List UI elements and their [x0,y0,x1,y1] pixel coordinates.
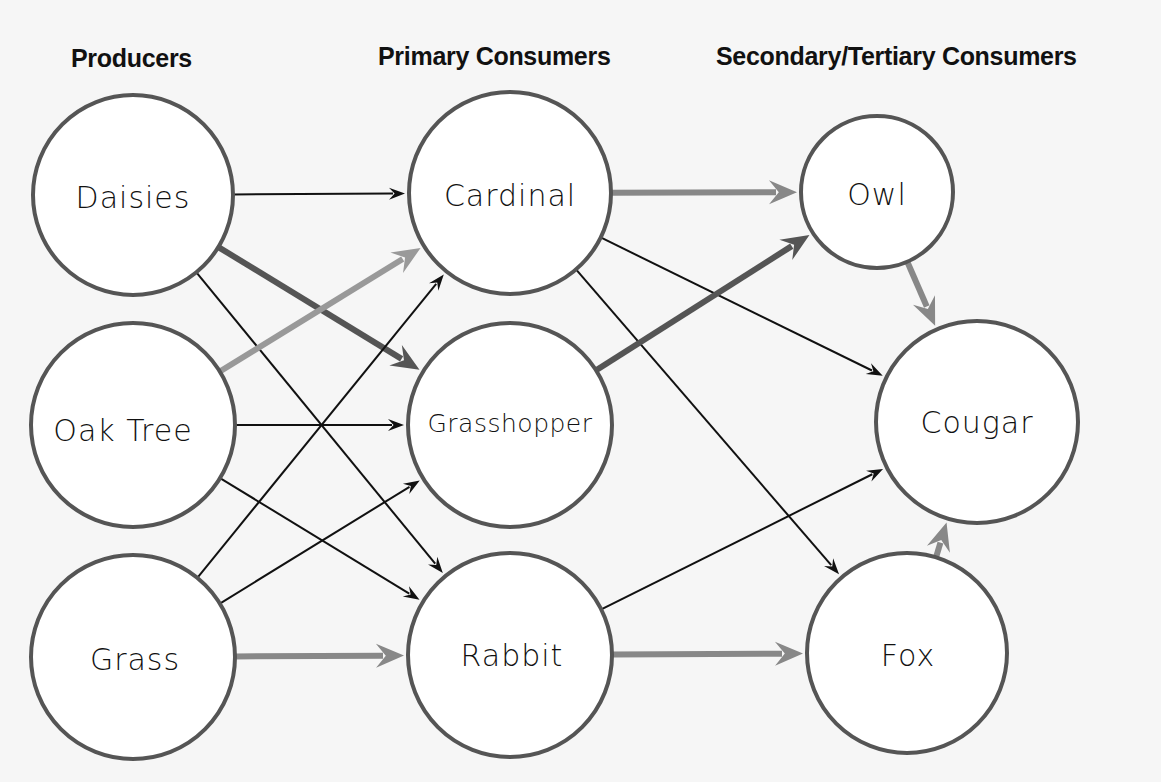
heading-primary-consumers: Primary Consumers [378,42,611,71]
arrowhead-icon [403,586,420,599]
node-label-owl: Owl [847,177,906,212]
node-label-rabbit: Rabbit [461,638,564,673]
arrow-rabbit-to-fox [612,642,803,666]
heading-producers: Producers [71,44,192,73]
node-label-cougar: Cougar [920,405,1033,440]
arrow-cardinal-to-fox [576,269,839,574]
food-web-diagram: Producers Primary Consumers Secondary/Te… [0,0,1161,782]
arrowhead-icon [779,235,809,260]
node-label-daisies: Daisies [76,180,191,215]
arrow-grass-to-rabbit [235,644,404,668]
arrow-oak-to-rabbit [220,478,419,600]
arrow-cardinal-to-owl [611,180,797,204]
arrowhead-icon [428,557,443,573]
arrow-grass-to-grasshopper [220,481,420,604]
node-label-grasshopper: Grasshopper [427,409,592,438]
arrow-grasshopper-to-owl [596,235,809,370]
heading-secondary-tertiary-consumers: Secondary/Tertiary Consumers [716,42,1077,71]
node-label-fox: Fox [881,638,935,673]
node-label-grass: Grass [90,642,180,677]
arrow-daisies-to-cardinal [233,188,405,200]
node-label-cardinal: Cardinal [444,178,576,213]
arrowhead-icon [403,481,420,494]
arrowhead-icon [429,274,444,290]
arrow-fox-to-cougar [927,522,950,557]
node-label-oak-tree: Oak Tree [53,413,192,448]
arrow-owl-to-cougar [907,262,935,326]
arrow-oak-to-grasshopper [235,419,404,431]
